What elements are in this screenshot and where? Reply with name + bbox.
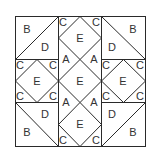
- label-c: C: [16, 90, 24, 102]
- label-c: C: [92, 134, 100, 146]
- label-d: D: [41, 41, 49, 53]
- label-e: E: [76, 118, 83, 130]
- label-c: C: [49, 59, 57, 71]
- label-c: C: [136, 90, 144, 102]
- label-b: B: [23, 126, 30, 138]
- label-d: D: [108, 41, 116, 53]
- label-e: E: [119, 75, 126, 87]
- top-left-diagonal: [16, 17, 59, 60]
- label-a: A: [90, 96, 98, 108]
- label-a: A: [90, 53, 98, 65]
- label-d: D: [108, 108, 116, 120]
- label-b: B: [129, 126, 136, 138]
- label-c: C: [59, 134, 67, 146]
- label-a: A: [62, 53, 70, 65]
- label-c: C: [16, 59, 24, 71]
- quilt-block-diagram: B D C C E B D A A E A A C C E C C C C E …: [0, 0, 151, 157]
- label-c: C: [59, 16, 67, 28]
- label-e: E: [76, 75, 83, 87]
- label-c: C: [102, 59, 110, 71]
- bottom-left-diagonal: [16, 103, 59, 147]
- label-e: E: [33, 75, 40, 87]
- label-b: B: [23, 23, 30, 35]
- label-e: E: [76, 32, 83, 44]
- label-d: D: [41, 108, 49, 120]
- label-c: C: [92, 16, 100, 28]
- label-c: C: [136, 59, 144, 71]
- top-right-diagonal: [102, 17, 146, 60]
- label-a: A: [62, 96, 70, 108]
- label-c: C: [49, 90, 57, 102]
- label-b: B: [129, 23, 136, 35]
- label-c: C: [102, 90, 110, 102]
